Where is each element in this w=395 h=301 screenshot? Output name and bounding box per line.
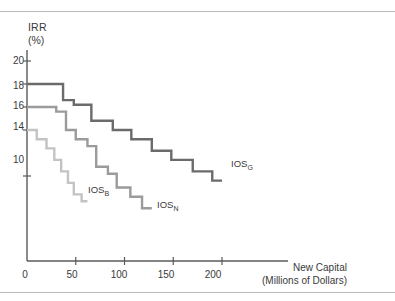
series-path-ios-n xyxy=(27,130,87,201)
chart-figure: IRR (%) New Capital (Millions of Dollars… xyxy=(0,0,395,301)
axis-lines xyxy=(23,50,288,265)
series-paths xyxy=(27,84,222,208)
chart-plot-area xyxy=(0,0,395,301)
series-path-ios-b xyxy=(27,107,152,208)
series-path-ios-g xyxy=(27,84,222,181)
